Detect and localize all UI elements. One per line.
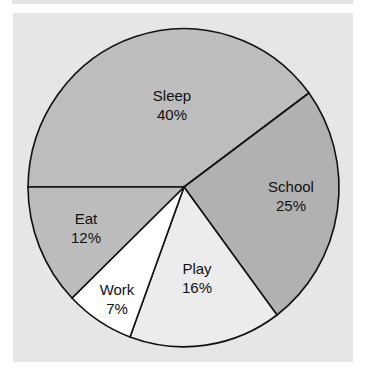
label-play: Play 16% [182,259,212,297]
label-sleep-name: Sleep [153,86,191,105]
label-eat: Eat 12% [71,209,101,247]
label-play-name: Play [182,259,212,278]
label-school: School 25% [268,177,314,215]
label-work: Work 7% [100,280,135,318]
label-play-pct: 16% [182,278,212,297]
label-work-name: Work [100,280,135,299]
label-eat-pct: 12% [71,228,101,247]
label-school-pct: 25% [268,196,314,215]
label-eat-name: Eat [71,209,101,228]
label-school-name: School [268,177,314,196]
label-work-pct: 7% [100,299,135,318]
label-sleep: Sleep 40% [153,86,191,124]
label-sleep-pct: 40% [153,105,191,124]
